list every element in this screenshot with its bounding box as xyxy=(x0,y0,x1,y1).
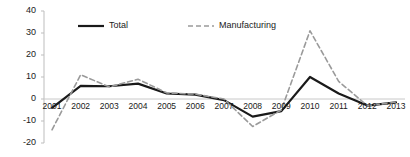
x-tick-label: 2003 xyxy=(93,102,125,111)
y-tick-label: 10 xyxy=(10,72,36,81)
legend-label-total: Total xyxy=(109,20,128,30)
y-tick-label: 20 xyxy=(10,50,36,59)
x-tick-label: 2010 xyxy=(294,102,326,111)
x-tick-label: 2004 xyxy=(122,102,154,111)
x-tick-label: 2005 xyxy=(151,102,183,111)
x-tick-label: 2006 xyxy=(179,102,211,111)
x-tick-label: 2013 xyxy=(380,102,410,111)
x-tick-label: 2008 xyxy=(237,102,269,111)
line-chart: 403020100-10-20 200120022003200420052006… xyxy=(0,0,410,157)
x-tick-label: 2009 xyxy=(265,102,297,111)
legend-label-manufacturing: Manufacturing xyxy=(219,20,276,30)
series-layer xyxy=(52,31,396,130)
series-line-manufacturing xyxy=(52,31,396,130)
y-tick-label: 30 xyxy=(10,28,36,37)
y-tick-label: -20 xyxy=(10,138,36,147)
y-tick-label: 40 xyxy=(10,6,36,15)
y-tick-label: -10 xyxy=(10,116,36,125)
x-tick-label: 2007 xyxy=(208,102,240,111)
y-tick-label: 0 xyxy=(10,94,36,103)
x-tick-label: 2002 xyxy=(65,102,97,111)
axis-layer xyxy=(41,11,44,143)
x-tick-label: 2012 xyxy=(351,102,383,111)
x-tick-label: 2011 xyxy=(323,102,355,111)
chart-plot-area xyxy=(0,0,410,157)
x-tick-label: 2001 xyxy=(36,102,68,111)
